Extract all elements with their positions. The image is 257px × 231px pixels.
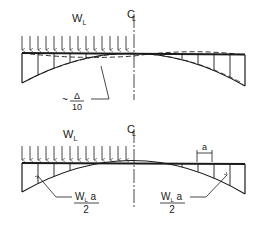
cable-profile bbox=[22, 53, 245, 86]
distributed-load-arrows bbox=[22, 146, 126, 160]
deflection-numerator: Δ bbox=[74, 91, 80, 101]
deflection-leader bbox=[91, 66, 109, 99]
load-label: WL bbox=[63, 128, 77, 142]
deflection-denominator: 10 bbox=[72, 102, 82, 112]
deflection-prefix: ~ bbox=[62, 94, 68, 105]
centerline-label: CL bbox=[127, 123, 136, 137]
left-force-numerator: WL a bbox=[75, 191, 97, 203]
load-label: WL bbox=[72, 12, 86, 26]
cable-profile bbox=[22, 160, 245, 194]
beam bbox=[22, 163, 245, 164]
right-force-numerator: WL a bbox=[161, 191, 183, 203]
right-force-denominator: 2 bbox=[169, 204, 175, 215]
centerline-label: CL bbox=[127, 8, 136, 22]
beam-load-diagram: WL CL ~ Δ 10 WL CL a bbox=[0, 0, 257, 231]
right-force-leader bbox=[190, 175, 227, 197]
distributed-load-arrows bbox=[22, 36, 126, 50]
left-force-leader bbox=[38, 176, 72, 197]
top-diagram: WL CL ~ Δ 10 bbox=[22, 8, 245, 112]
bottom-diagram: WL CL a WL a 2 WL a 2 bbox=[22, 123, 245, 215]
left-force-denominator: 2 bbox=[83, 204, 89, 215]
spacing-label: a bbox=[202, 142, 207, 152]
